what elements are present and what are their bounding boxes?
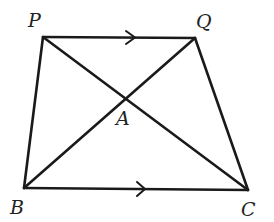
trapezium-diagram: P Q A B C (0, 0, 274, 222)
diagonal-qb (24, 38, 195, 188)
segment-cb (24, 188, 248, 190)
label-a: A (114, 107, 130, 129)
segment-bp (24, 37, 43, 188)
segment-pq (43, 37, 195, 38)
label-q: Q (196, 10, 212, 32)
segment-qc (195, 38, 248, 190)
diagonal-pc (43, 37, 248, 190)
label-p: P (27, 9, 42, 31)
label-c: C (241, 198, 256, 220)
label-b: B (9, 196, 24, 218)
